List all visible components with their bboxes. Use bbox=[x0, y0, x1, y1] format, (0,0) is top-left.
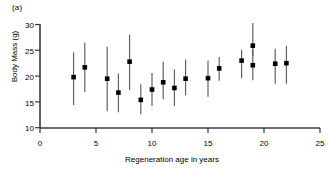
marker-square bbox=[273, 61, 278, 66]
x-axis-ticks bbox=[40, 128, 320, 133]
data-series-body-mass bbox=[71, 23, 288, 114]
marker-square bbox=[150, 87, 155, 92]
data-point bbox=[150, 73, 155, 106]
data-point bbox=[273, 49, 278, 84]
marker-square bbox=[172, 86, 177, 91]
data-point bbox=[172, 69, 177, 106]
data-point bbox=[251, 49, 256, 80]
marker-square bbox=[217, 66, 222, 71]
data-point bbox=[206, 61, 211, 97]
marker-square bbox=[71, 75, 76, 80]
marker-square bbox=[161, 80, 166, 85]
data-point bbox=[284, 46, 289, 84]
marker-square bbox=[139, 98, 144, 103]
marker-square bbox=[116, 90, 121, 95]
data-point bbox=[116, 74, 121, 113]
data-point bbox=[83, 43, 88, 93]
data-point bbox=[71, 52, 76, 105]
data-point bbox=[239, 50, 244, 78]
marker-square bbox=[83, 65, 88, 70]
marker-square bbox=[206, 76, 211, 81]
data-point bbox=[127, 35, 132, 90]
data-point bbox=[139, 84, 144, 114]
marker-square bbox=[127, 59, 132, 64]
marker-square bbox=[239, 58, 244, 63]
marker-square bbox=[284, 61, 289, 66]
marker-square bbox=[251, 43, 256, 48]
data-point bbox=[183, 60, 188, 96]
marker-square bbox=[105, 76, 110, 81]
axes bbox=[35, 24, 320, 133]
data-point bbox=[217, 57, 222, 81]
marker-square bbox=[251, 63, 256, 68]
data-point bbox=[161, 62, 166, 100]
marker-square bbox=[183, 76, 188, 81]
data-point bbox=[105, 47, 110, 112]
